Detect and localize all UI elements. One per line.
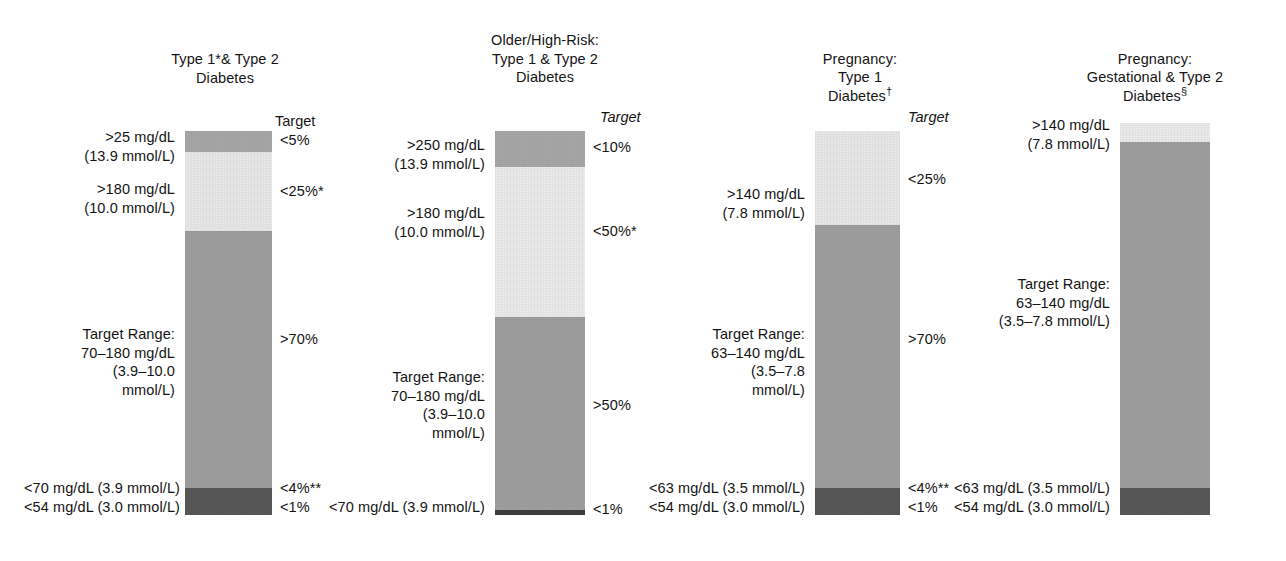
label-very-low-threshold: <54 mg/dL (3.0 mmol/L) xyxy=(5,498,180,517)
label-high-threshold: >140 mg/dL (7.8 mmol/L) xyxy=(695,185,805,222)
target-header: Target xyxy=(275,112,315,131)
stacked-bar xyxy=(185,131,272,515)
stacked-bar xyxy=(1120,123,1210,515)
value-low: <4%** xyxy=(280,479,380,498)
column-pregnancy-gestational-type2: Pregnancy: Gestational & Type 2 Diabetes… xyxy=(930,0,1286,561)
label-target-range: Target Range: 63–140 mg/dL (3.5–7.8 mmol… xyxy=(985,275,1110,331)
segment-high xyxy=(185,152,272,231)
target-header: Target xyxy=(600,108,641,127)
label-high-threshold: >180 mg/dL (10.0 mmol/L) xyxy=(60,180,175,217)
label-low-threshold: <63 mg/dL (3.5 mmol/L) xyxy=(635,479,805,498)
segment-low xyxy=(815,488,900,515)
segment-very-high xyxy=(185,131,272,152)
value-target: >70% xyxy=(280,330,380,349)
segment-very-low xyxy=(495,510,585,515)
column-title: Pregnancy: Gestational & Type 2 Diabetes… xyxy=(1040,31,1270,105)
label-high-threshold: >140 mg/dL (7.8 mmol/L) xyxy=(995,116,1110,153)
segment-target xyxy=(185,231,272,488)
segment-high xyxy=(1120,123,1210,142)
label-target-range: Target Range: 70–180 mg/dL (3.9–10.0 mmo… xyxy=(60,325,175,399)
segment-target xyxy=(815,225,900,488)
section-footnote-marker: § xyxy=(1181,85,1187,97)
label-very-low-threshold: <54 mg/dL (3.0 mmol/L) xyxy=(930,498,1110,517)
label-low-threshold: <70 mg/dL (3.9 mmol/L) xyxy=(5,479,180,498)
label-very-high-threshold: >250 mg/dL (13.9 mmol/L) xyxy=(370,136,485,173)
segment-high xyxy=(495,167,585,317)
segment-target xyxy=(1120,142,1210,488)
value-very-high: <10% xyxy=(593,138,693,157)
segment-very-high xyxy=(495,131,585,167)
column-type1-type2: Type 1*& Type 2 Diabetes Target >25 mg/d… xyxy=(60,0,390,561)
dagger-footnote-marker: † xyxy=(886,85,892,97)
stacked-bar xyxy=(495,131,585,515)
label-very-low-threshold: <70 mg/dL (3.9 mmol/L) xyxy=(310,498,485,517)
label-very-low-threshold: <54 mg/dL (3.0 mmol/L) xyxy=(635,498,805,517)
column-title: Older/High-Risk: Type 1 & Type 2 Diabete… xyxy=(410,31,680,87)
label-high-threshold: >180 mg/dL (10.0 mmol/L) xyxy=(370,204,485,241)
label-low-threshold: <63 mg/dL (3.5 mmol/L) xyxy=(930,479,1110,498)
segment-target xyxy=(495,317,585,510)
value-high: <50%* xyxy=(593,222,693,241)
stacked-bar xyxy=(815,131,900,515)
label-target-range: Target Range: 63–140 mg/dL (3.5–7.8 mmol… xyxy=(695,325,805,399)
column-title-text: Pregnancy: Gestational & Type 2 Diabetes xyxy=(1087,51,1223,104)
label-target-range: Target Range: 70–180 mg/dL (3.9–10.0 mmo… xyxy=(370,368,485,442)
segment-low xyxy=(1120,488,1210,515)
value-very-high: <5% xyxy=(280,131,380,150)
value-target: >50% xyxy=(593,396,693,415)
segment-low xyxy=(185,488,272,515)
label-very-high-threshold: >25 mg/dL (13.9 mmol/L) xyxy=(60,128,175,165)
cgm-target-ranges-figure: Type 1*& Type 2 Diabetes Target >25 mg/d… xyxy=(0,0,1286,561)
column-title: Type 1*& Type 2 Diabetes xyxy=(90,50,360,87)
segment-high xyxy=(815,131,900,225)
value-high: <25%* xyxy=(280,182,380,201)
column-older-high-risk: Older/High-Risk: Type 1 & Type 2 Diabete… xyxy=(380,0,710,561)
